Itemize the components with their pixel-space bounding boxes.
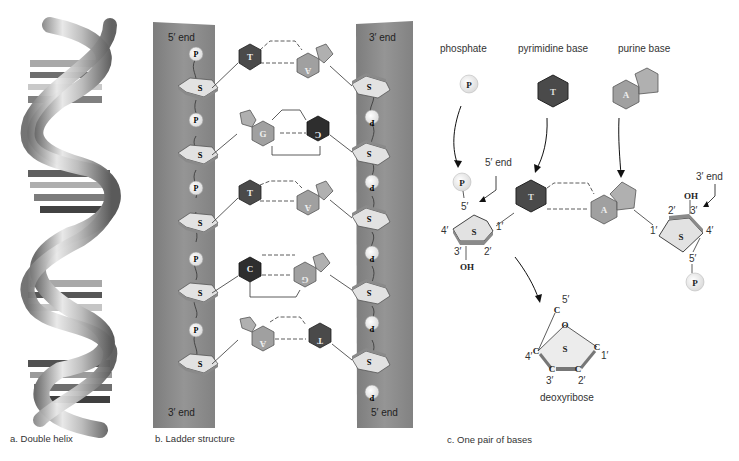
- svg-text:3′: 3′: [690, 205, 698, 216]
- svg-text:P: P: [194, 184, 199, 193]
- base-pair-detail: phosphate pyrimidine base purine base P …: [440, 43, 723, 403]
- svg-text:T: T: [528, 192, 534, 202]
- svg-text:P: P: [692, 278, 698, 288]
- svg-text:P: P: [194, 116, 199, 125]
- svg-text:5′: 5′: [562, 294, 570, 305]
- svg-text:G: G: [301, 275, 308, 285]
- svg-text:S: S: [366, 357, 371, 367]
- svg-text:S: S: [198, 83, 203, 93]
- svg-text:A: A: [259, 339, 266, 349]
- svg-text:S: S: [366, 149, 371, 159]
- right-strand-top-label: 3′ end: [369, 32, 396, 43]
- svg-text:S: S: [198, 288, 203, 298]
- right-strand-bottom-label: 5′ end: [371, 407, 398, 418]
- svg-text:S: S: [678, 232, 683, 242]
- svg-text:1′: 1′: [650, 225, 658, 236]
- svg-text:S: S: [198, 150, 203, 160]
- double-helix-illustration: [27, 25, 112, 430]
- svg-text:3′ end: 3′ end: [696, 171, 723, 182]
- svg-text:P: P: [369, 118, 374, 127]
- svg-text:P: P: [369, 393, 374, 402]
- phosphate-left-2: P: [189, 113, 203, 127]
- svg-text:OH: OH: [684, 191, 698, 201]
- svg-text:C: C: [575, 364, 582, 374]
- svg-text:P: P: [369, 183, 374, 192]
- central-base-pair: T A: [516, 180, 653, 225]
- deoxyribose-label: deoxyribose: [540, 392, 594, 403]
- base-pair-4: C G: [212, 253, 352, 297]
- caption-double-helix: a. Double helix: [10, 433, 73, 444]
- svg-text:5′: 5′: [689, 253, 697, 264]
- phosphate-left-4: P: [189, 252, 203, 266]
- svg-text:2′: 2′: [578, 375, 586, 386]
- right-nucleotide: 1′ S 2′ 3′ 4′ OH 3′ end 5′ P: [650, 171, 723, 291]
- svg-text:P: P: [466, 80, 472, 90]
- svg-text:S: S: [471, 227, 476, 237]
- svg-text:C: C: [549, 364, 556, 374]
- base-pair-2: G C: [212, 110, 352, 155]
- svg-text:C: C: [247, 264, 254, 274]
- svg-text:P: P: [194, 255, 199, 264]
- base-pair-1: T A: [212, 41, 352, 88]
- svg-text:4′: 4′: [706, 225, 714, 236]
- svg-text:1′: 1′: [601, 350, 609, 361]
- svg-text:P: P: [459, 178, 465, 188]
- left-nucleotide: P 5′ 5′ end S 4′ 3′ 2′ 1′ OH: [441, 157, 514, 272]
- svg-text:T: T: [247, 52, 253, 62]
- svg-text:5′ end: 5′ end: [485, 157, 512, 168]
- svg-text:P: P: [194, 326, 199, 335]
- svg-text:P: P: [369, 254, 374, 263]
- svg-text:P: P: [194, 50, 199, 59]
- svg-text:C: C: [554, 305, 561, 315]
- svg-text:C: C: [533, 346, 540, 356]
- svg-text:P: P: [369, 324, 374, 333]
- svg-text:S: S: [366, 82, 371, 92]
- svg-text:A: A: [623, 90, 630, 100]
- dna-structure-diagram: a. Double helix 5′ end 3′ end 3′ end 5′ …: [0, 0, 739, 461]
- svg-text:2′: 2′: [484, 246, 492, 257]
- svg-text:4′: 4′: [525, 351, 533, 362]
- phosphate-left-5: P: [189, 323, 203, 337]
- svg-text:T: T: [247, 188, 253, 198]
- svg-text:S: S: [366, 288, 371, 298]
- left-strand-bottom-label: 3′ end: [168, 407, 195, 418]
- legend-purine-symbol: A: [613, 68, 658, 109]
- ladder-structure: 5′ end 3′ end 3′ end 5′ end P P P P P P …: [153, 21, 413, 428]
- svg-text:G: G: [259, 129, 266, 139]
- svg-text:S: S: [366, 214, 371, 224]
- svg-text:S: S: [198, 218, 203, 228]
- legend-pyrimidine-label: pyrimidine base: [518, 43, 588, 54]
- phosphate-left-3: P: [189, 181, 203, 195]
- legend-purine-label: purine base: [618, 43, 671, 54]
- svg-text:OH: OH: [460, 262, 474, 272]
- svg-text:O: O: [561, 320, 568, 330]
- deoxyribose-structure: C O C C C C S 5′ 4′ 3′ 2′ 1′ deoxyribose: [525, 294, 609, 403]
- svg-text:3′: 3′: [546, 375, 554, 386]
- svg-text:S: S: [562, 344, 567, 354]
- svg-text:T: T: [317, 336, 323, 346]
- svg-text:4′: 4′: [441, 225, 449, 236]
- svg-text:A: A: [304, 66, 311, 76]
- caption-ladder-structure: b. Ladder structure: [155, 433, 235, 444]
- svg-text:2′: 2′: [668, 205, 676, 216]
- caption-one-pair-of-bases: c. One pair of bases: [447, 434, 532, 445]
- svg-text:A: A: [304, 203, 311, 213]
- legend-pyrimidine-symbol: T: [538, 75, 568, 107]
- svg-text:C: C: [594, 342, 601, 352]
- svg-text:C: C: [315, 130, 322, 140]
- svg-text:S: S: [198, 359, 203, 369]
- svg-text:5′: 5′: [461, 201, 469, 212]
- svg-text:A: A: [601, 205, 608, 215]
- base-pair-5: A T: [212, 317, 352, 364]
- legend-phosphate-symbol: P: [460, 75, 478, 93]
- left-strand-top-label: 5′ end: [168, 32, 195, 43]
- svg-text:1′: 1′: [496, 221, 504, 232]
- base-pair-3: T A: [212, 180, 352, 223]
- svg-text:3′: 3′: [454, 246, 462, 257]
- phosphate-left-1: P: [189, 47, 203, 61]
- svg-text:T: T: [550, 87, 556, 97]
- legend-phosphate-label: phosphate: [440, 43, 487, 54]
